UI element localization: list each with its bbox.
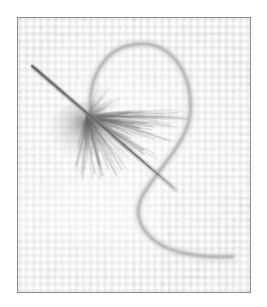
photograph-needle-and-thread (18, 18, 250, 292)
photo-frame (17, 17, 251, 293)
screenshot-root: Needle and frayed thread on mesh gauze C… (0, 0, 267, 307)
